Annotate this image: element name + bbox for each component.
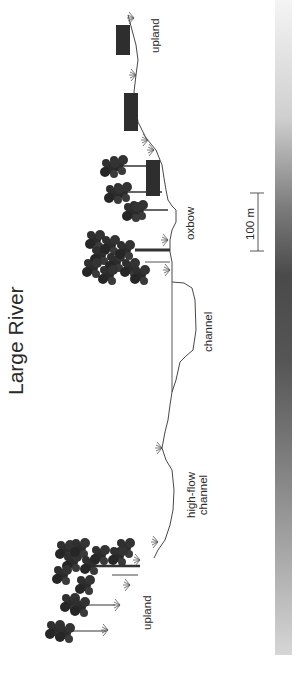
scale-bar-label: 100 m bbox=[245, 208, 257, 240]
figure-title: Large River bbox=[5, 286, 26, 395]
label-upland-bottom: upland bbox=[142, 595, 154, 630]
upland-bottom-trees bbox=[45, 538, 140, 643]
label-high-flow-channel: high-flow channel bbox=[185, 472, 209, 518]
large-riparian-tree bbox=[82, 230, 170, 285]
river-cross-section bbox=[0, 0, 301, 673]
label-upland-top: upland bbox=[150, 18, 162, 53]
oxbow-trees bbox=[100, 155, 168, 222]
label-oxbow: oxbow bbox=[185, 207, 197, 240]
label-high-flow-line2: channel bbox=[197, 472, 209, 518]
label-high-flow-line1: high-flow bbox=[185, 472, 197, 518]
label-channel: channel bbox=[203, 312, 215, 352]
